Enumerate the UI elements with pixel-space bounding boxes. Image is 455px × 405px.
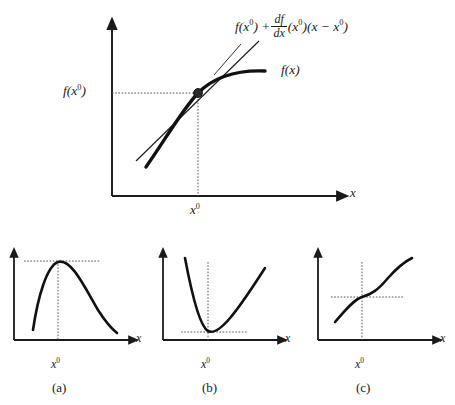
y-axis-label-close: ) [81, 83, 86, 98]
function-curve-label-text: f(x) [281, 62, 300, 77]
figure-canvas [0, 0, 455, 405]
y-axis-label-text: f(x [63, 83, 77, 98]
panel-b-x0-tick-label: x0 [201, 358, 210, 370]
panel-c-curve [335, 258, 412, 322]
figure-root: f(x0) +dfdx(x0)(x − x0) f(x) f(x0) x x0 … [0, 0, 455, 405]
panel-c-caption: (c) [356, 380, 370, 396]
function-curve-label: f(x) [281, 63, 300, 77]
panel-a-caption: (a) [52, 380, 66, 396]
panel-b-graphic [163, 256, 279, 340]
panel-c-x0-sup: 0 [360, 356, 364, 365]
panel-c-graphic [318, 256, 434, 340]
panel-b-caption: (b) [202, 380, 217, 396]
panel-a-x-axis-label: x [136, 332, 141, 344]
panel-c-x0-tick-label: x0 [355, 358, 364, 370]
panel-b-curve [185, 258, 265, 332]
panel-c-x-axis-label: x [440, 332, 445, 344]
panel-b-x0-sup: 0 [206, 356, 210, 365]
main-x0-tick-label: x0 [190, 203, 200, 216]
panel-c-x-axis-text: x [440, 331, 445, 345]
tangency-point-marker [194, 89, 203, 98]
fraction-numerator: df [271, 13, 286, 26]
panel-a-curve [33, 262, 117, 333]
main-x0-tick-sup: 0 [196, 202, 200, 211]
formula-leader-line [214, 44, 241, 75]
panel-b-caption-text: (b) [202, 380, 217, 395]
formula-part4: )(x − x [302, 19, 339, 34]
panel-a-x-axis-text: x [136, 331, 141, 345]
panel-b-x-axis-label: x [285, 332, 290, 344]
derivative-fraction: dfdx [271, 13, 286, 40]
main-x-axis-label-text: x [350, 185, 356, 200]
fraction-denominator: dx [271, 26, 286, 40]
function-curve [146, 71, 265, 167]
main-x-axis-label: x [350, 186, 356, 199]
panel-a-x0-tick-label: x0 [51, 358, 60, 370]
main-y-axis-label: f(x0) [63, 84, 86, 98]
panel-a-caption-text: (a) [52, 380, 66, 395]
panel-a-graphic [14, 256, 130, 340]
panel-a-x0-sup: 0 [56, 356, 60, 365]
main-plot-axes [112, 28, 338, 196]
formula-part5: ) [343, 19, 348, 34]
panel-c-caption-text: (c) [356, 380, 370, 395]
formula-part3: (x [288, 19, 299, 34]
tangent-line [136, 41, 259, 161]
formula-part2: ) + [253, 19, 270, 34]
formula-part1: f(x [235, 19, 249, 34]
tangent-formula-label: f(x0) +dfdx(x0)(x − x0) [235, 14, 348, 41]
panel-b-x-axis-text: x [285, 331, 290, 345]
